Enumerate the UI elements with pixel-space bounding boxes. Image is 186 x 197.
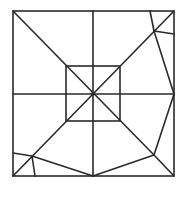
bottom-left-flap-edge-a [13, 153, 32, 156]
bottom-kite-right [93, 155, 154, 176]
bottom-left-flap-edge-b [32, 156, 35, 176]
crease-pattern-svg [0, 0, 186, 197]
diagonal-top-left-to-bottom-right-inner [13, 11, 154, 155]
center-point [91, 92, 95, 96]
top-right-flap-edge-b [154, 31, 174, 34]
bottom-kite-left [32, 156, 93, 176]
top-right-flap-edge-a [150, 11, 154, 31]
diagonal-bottom-right-corner [154, 155, 174, 176]
right-kite-upper [154, 31, 174, 94]
crease-pattern-diagram [0, 0, 186, 197]
crease-lines [13, 11, 174, 176]
right-kite-lower [154, 94, 174, 155]
